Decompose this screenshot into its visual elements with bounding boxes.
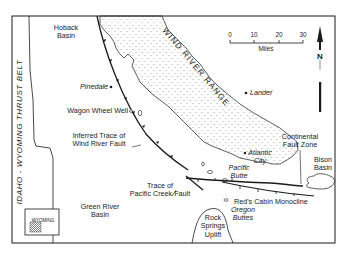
reds-cabin-monocline-label: Red's Cabin Monocline (234, 198, 308, 206)
oregon-line2: Buttes (228, 214, 258, 222)
scale-bar (230, 40, 303, 43)
inferred-line2: Wind River Fault (64, 140, 134, 148)
lander-marker (245, 92, 248, 95)
rock-springs-uplift-label: Rock Springs Uplift (196, 214, 230, 239)
wyoming-inset-label: WYOMING (27, 218, 59, 223)
hoback-line2: Basin (50, 32, 82, 40)
scale-tick-10: 10 (250, 31, 257, 38)
hoback-basin-label: Hoback Basin (50, 24, 82, 41)
inferred-wind-river-fault-label: Inferred Trace of Wind River Fault (64, 132, 134, 149)
pacific-creek-line2: Pacific Creek Fault (124, 190, 196, 198)
pacific-butte-label: Pacific Butte (224, 164, 254, 181)
scale-tick-20: 20 (275, 31, 282, 38)
bison-basin-label: Bison Basin (310, 156, 336, 173)
thrust-belt-label: IDAHO - WYOMING THRUST BELT (15, 60, 24, 205)
wagon-wheel-marker (130, 110, 133, 113)
pacific-line2: Butte (224, 172, 254, 180)
pinedale-marker (110, 86, 113, 89)
scale-tick-30: 30 (299, 31, 306, 38)
scale-unit: Miles (259, 45, 274, 52)
bison-line2: Basin (310, 164, 336, 172)
lander-label: Lander (250, 89, 272, 97)
pacific-creek-fault-label: Trace of Pacific Creek Fault (124, 182, 196, 199)
wyoming-inset-hatch (30, 222, 41, 232)
green-river-line2: Basin (74, 211, 126, 219)
north-label: N (315, 53, 325, 61)
wagon-wheel-well-label: Wagon Wheel Well (52, 107, 128, 115)
reds-cabin-monocline (222, 182, 314, 196)
rock-line3: Uplift (196, 231, 230, 239)
bison-basin-outline (307, 174, 335, 189)
scale-tick-0: 0 (228, 31, 232, 38)
continental-fault-zone-label: Continental Fault Zone (274, 133, 326, 150)
continental-line2: Fault Zone (274, 141, 326, 149)
continental-leader (300, 150, 301, 184)
pinedale-label: Pinedale (68, 83, 108, 91)
north-arrow (317, 26, 323, 112)
oregon-buttes-label: Oregon Buttes (228, 206, 258, 223)
green-river-basin-label: Green River Basin (74, 203, 126, 220)
